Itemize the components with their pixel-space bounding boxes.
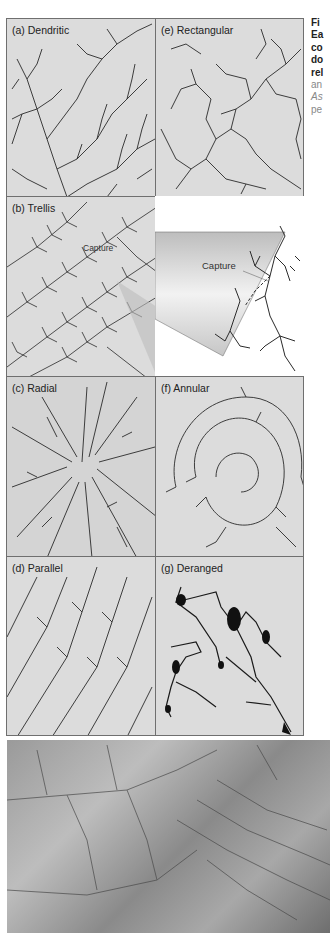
caption-line: As — [311, 91, 334, 103]
parallel-drainage-icon — [7, 557, 156, 736]
panel-deranged: (g) Deranged — [155, 556, 304, 736]
panel-label: (f) Annular — [161, 382, 209, 394]
panel-label: (b) Trellis — [12, 202, 55, 214]
panel-trellis: (b) Trellis Capture — [6, 196, 156, 377]
caption-line: Ea — [311, 29, 334, 41]
annular-drainage-icon — [156, 377, 304, 557]
figure-caption: Fi Ea co do rel an As pe — [311, 17, 334, 116]
caption-line: do — [311, 54, 334, 66]
caption-line: Fi — [311, 17, 334, 29]
capture-inset-diagram — [155, 196, 304, 377]
panel-annular: (f) Annular — [155, 376, 304, 557]
caption-line: rel — [311, 67, 334, 79]
radial-drainage-icon — [7, 377, 156, 557]
panel-label: (d) Parallel — [12, 562, 63, 574]
panel-label: (e) Rectangular — [161, 24, 233, 36]
caption-line: co — [311, 42, 334, 54]
panel-label: (a) Dendritic — [12, 24, 69, 36]
capture-zoom-wedge — [7, 197, 156, 377]
panel-dendritic: (a) Dendritic — [6, 18, 156, 197]
capture-annotation: Capture — [83, 243, 113, 253]
caption-line: an — [311, 79, 334, 91]
capture-inset-annotation: Capture — [202, 260, 236, 271]
dendritic-drainage-icon — [7, 19, 156, 197]
panel-radial: (c) Radial — [6, 376, 156, 557]
panel-rectangular: (e) Rectangular — [155, 18, 304, 197]
panel-label: (g) Deranged — [161, 562, 223, 574]
panel-label: (c) Radial — [12, 382, 57, 394]
deranged-drainage-icon — [156, 557, 304, 736]
aerial-terrain-photo — [7, 740, 330, 933]
caption-line: pe — [311, 104, 334, 116]
trellis-capture-inset: Capture — [155, 196, 304, 377]
terrain-texture — [7, 740, 330, 933]
panel-parallel: (d) Parallel — [6, 556, 156, 736]
rectangular-drainage-icon — [156, 19, 304, 197]
